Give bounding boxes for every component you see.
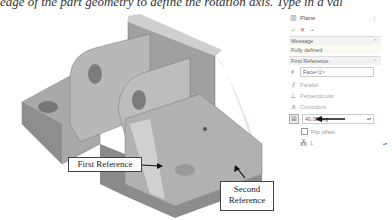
parallel-option[interactable]: ⫽ Parallel [289,80,381,90]
pm-header: ▥ Plane ⋮ [289,13,381,23]
first-reference-section-label: First Reference [291,58,329,64]
angle-icon[interactable]: ⊠ [289,114,299,124]
instances-icon: ⁂ [299,139,307,147]
second-reference-label-2: Reference [221,195,273,206]
message-box: Fully defined [289,45,381,54]
reference-face-icon: ◐ [289,68,297,76]
reference-selection-row: ◐ Face<1> [289,67,381,77]
reference-selection-value: Face<1> [303,69,325,75]
pm-title: Plane [300,15,315,21]
instances-spinner[interactable]: ▴▾ [383,141,387,146]
perpendicular-label: Perpendicular [300,93,334,99]
message-section-header[interactable]: Message ⌃ [289,36,381,45]
parallel-label: Parallel [300,82,318,88]
first-reference-section-header[interactable]: First Reference ⌃ [289,56,381,65]
cancel-button[interactable]: ✕ [300,27,305,33]
perpendicular-icon: ⊥ [289,92,297,100]
angle-row: ⊠ 40.00deg ▴▾ [289,113,381,124]
flip-offset-label: Flip offset [311,129,335,135]
coincident-label: Coincident [300,104,326,110]
first-reference-callout: First Reference [68,157,142,172]
more-icon[interactable]: ⋮ [372,15,377,21]
message-text: Fully defined [291,47,322,53]
message-section-label: Message [291,38,313,44]
plane-property-manager: ▥ Plane ⋮ ✓ ✕ ⊸ Message ⌃ Fully defined … [289,13,381,173]
second-reference-callout: Second Reference [220,181,274,211]
plane-icon: ▥ [289,14,297,22]
instances-row: ⁂ 1 ▴▾ [289,138,391,148]
angle-spinner[interactable]: ▴▾ [367,116,371,121]
coincident-icon: ∧ [289,103,297,111]
ok-button[interactable]: ✓ [291,27,296,33]
flip-offset-checkbox[interactable] [301,128,308,135]
pin-button[interactable]: ⊸ [309,27,314,33]
coincident-option[interactable]: ∧ Coincident [289,102,381,112]
flip-offset-row: Flip offset [289,127,392,136]
reference-selection-box[interactable]: Face<1> [300,67,374,77]
second-reference-label-1: Second [221,184,273,195]
perpendicular-option[interactable]: ⊥ Perpendicular [289,91,381,101]
angle-arrow-annotation [315,116,345,122]
chevron-up-icon: ⌃ [373,58,377,64]
caption-text: edge of the part geometry to define the … [0,0,385,10]
first-reference-label: First Reference [77,159,132,169]
parallel-icon: ⫽ [289,81,297,89]
pm-actions: ✓ ✕ ⊸ [289,25,381,34]
graphics-viewport[interactable]: First Reference Second Reference [0,14,272,220]
instances-value[interactable]: 1 [310,140,313,146]
chevron-up-icon: ⌃ [373,38,377,44]
